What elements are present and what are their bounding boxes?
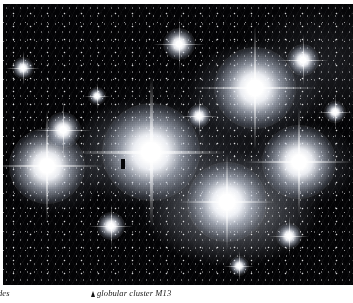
figure-caption-row: des globular cluster M13: [0, 286, 353, 303]
scanned-page: des globular cluster M13: [0, 0, 353, 303]
caption-right: globular cluster M13: [97, 288, 171, 298]
caption-left: des: [0, 288, 10, 298]
astrophotograph-plate: [3, 4, 353, 285]
triangle-marker-icon: [91, 291, 95, 297]
film-grain: [3, 4, 353, 285]
